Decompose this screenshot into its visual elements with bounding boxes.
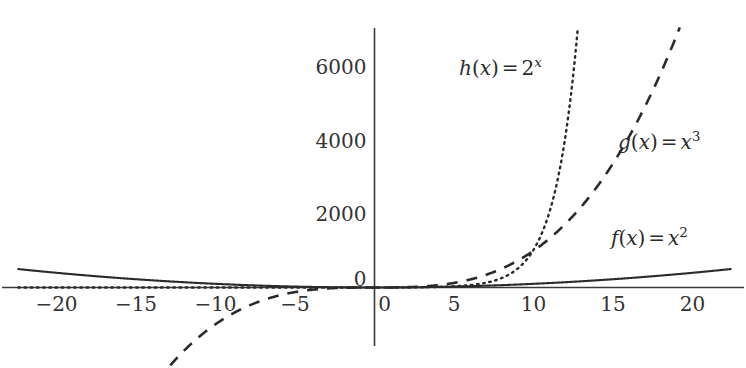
- curve-label-h-arg: x: [480, 56, 491, 80]
- curve-label-h-base: 2: [522, 56, 535, 80]
- curve-label-g: g(x)=x3: [618, 132, 700, 152]
- curve-label-g-paren-open: (: [631, 130, 639, 154]
- curve-label-f: f(x)=x2: [611, 228, 688, 248]
- x-tick-label-neg20: −20: [35, 294, 77, 314]
- y-tick-label-2000: 2000: [316, 204, 367, 224]
- x-tick-label-neg10: −10: [194, 294, 236, 314]
- curve-label-h-exponent: x: [534, 54, 542, 70]
- curve-label-g-equals: =: [658, 130, 681, 154]
- y-tick-label-6000: 6000: [316, 57, 367, 77]
- curve-label-g-exponent: 3: [692, 128, 701, 144]
- curve-label-h-paren-close: ): [491, 56, 499, 80]
- x-tick-label-0: 0: [378, 294, 391, 314]
- curve-label-h-paren-open: (: [472, 56, 480, 80]
- curve-label-f-exponent: 2: [679, 224, 688, 240]
- curve-label-h-equals: =: [499, 56, 522, 80]
- x-tick-label-neg5: −5: [280, 294, 309, 314]
- curve-label-f-arg: x: [626, 226, 637, 250]
- curve-label-f-base: x: [668, 226, 679, 250]
- x-tick-label-neg15: −15: [115, 294, 157, 314]
- function-comparison-chart: −20−15−10−505101520 0200040006000 h(x)=2…: [0, 0, 746, 368]
- axes-group: [2, 28, 744, 346]
- x-tick-label-5: 5: [448, 294, 461, 314]
- x-tick-label-15: 15: [600, 294, 625, 314]
- y-tick-label-0: 0: [354, 269, 367, 289]
- x-tick-label-20: 20: [680, 294, 705, 314]
- y-tick-label-4000: 4000: [316, 131, 367, 151]
- curve-label-g-arg: x: [639, 130, 650, 154]
- curve-label-g-base: x: [680, 130, 691, 154]
- x-tick-label-10: 10: [521, 294, 546, 314]
- curve-label-h: h(x)=2x: [459, 58, 542, 78]
- curve-label-h-fn: h: [459, 56, 472, 80]
- curve-label-g-fn: g: [618, 130, 631, 154]
- plot-canvas: [0, 0, 746, 368]
- curve-label-g-paren-close: ): [650, 130, 658, 154]
- curve-label-f-equals: =: [645, 226, 668, 250]
